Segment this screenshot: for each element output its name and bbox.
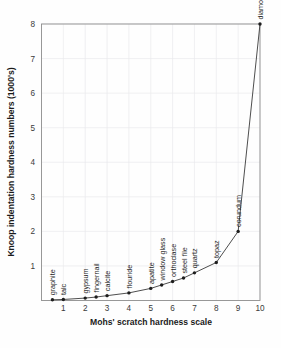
point-label: window glass xyxy=(158,237,167,281)
point-label: talc xyxy=(59,283,68,295)
x-tick-label: 4 xyxy=(127,304,132,313)
y-tick-label: 2 xyxy=(30,227,35,236)
point-label: orthoclase xyxy=(169,244,178,277)
point-label: apatite xyxy=(147,262,156,284)
y-tick-label: 5 xyxy=(30,124,35,133)
point-label: topaz xyxy=(212,240,221,258)
point-label: quartz xyxy=(190,248,199,268)
x-tick-label: 3 xyxy=(105,304,110,313)
y-tick-label: 7 xyxy=(30,55,35,64)
point-label: diamond xyxy=(256,0,265,20)
point-label: calcite xyxy=(103,271,112,291)
y-tick-label: 4 xyxy=(30,158,35,167)
data-point-labels: graphitetalcgypsumfingernailcalciteflour… xyxy=(48,0,265,295)
x-tick-labels: 12345678910 xyxy=(61,304,265,313)
knoop-vs-mohs-line-chart: graphitetalcgypsumfingernailcalciteflour… xyxy=(0,0,281,348)
x-tick-label: 10 xyxy=(255,304,265,313)
chart-container: graphitetalcgypsumfingernailcalciteflour… xyxy=(0,0,281,348)
x-tick-label: 2 xyxy=(83,304,88,313)
y-tick-label: 1 xyxy=(30,262,35,271)
x-tick-label: 5 xyxy=(148,304,153,313)
point-label: flouride xyxy=(125,265,134,289)
x-tick-label: 1 xyxy=(61,304,66,313)
x-tick-label: 8 xyxy=(214,304,219,313)
x-tick-label: 6 xyxy=(170,304,175,313)
point-label: steel file xyxy=(180,247,189,273)
point-label: graphite xyxy=(48,269,57,295)
y-tick-label: 8 xyxy=(30,20,35,29)
point-label: corundum xyxy=(234,195,243,227)
point-label: fingernail xyxy=(92,263,101,293)
y-axis-title: Knoop indentation hardness numbers (1000… xyxy=(6,67,16,256)
x-tick-label: 7 xyxy=(192,304,197,313)
x-axis-title: Mohs' scratch hardness scale xyxy=(90,317,212,327)
y-tick-labels: 12345678 xyxy=(30,20,35,271)
point-label: gypsum xyxy=(81,268,90,293)
x-tick-label: 9 xyxy=(236,304,241,313)
y-tick-label: 6 xyxy=(30,89,35,98)
y-tick-label: 3 xyxy=(30,193,35,202)
